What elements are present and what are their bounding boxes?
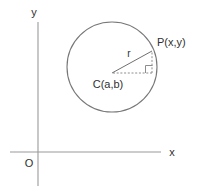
x-axis-label: x [169,146,175,158]
right-triangle-legs [113,52,152,73]
figure-canvas: y x O P(x,y) C(a,b) r [0,0,199,189]
origin-label: O [25,157,34,169]
circle-shape [67,22,157,112]
circle-diagram-svg: y x O P(x,y) C(a,b) r [0,0,199,189]
point-p-label: P(x,y) [157,36,186,48]
right-angle-marker-icon [146,66,153,74]
y-axis-label: y [31,6,37,18]
center-c-label: C(a,b) [93,78,124,90]
radius-label: r [127,48,131,59]
